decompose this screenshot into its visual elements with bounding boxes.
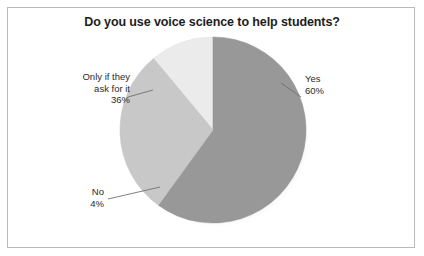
pie-label-only-if-asked-line1: Only if they xyxy=(82,71,130,83)
pie-label-only-if-asked-line2: ask for it xyxy=(82,83,130,95)
pie-label-yes-value: 60% xyxy=(305,85,324,97)
pie-label-only-if-asked-value: 36% xyxy=(82,94,130,106)
pie-label-yes: Yes 60% xyxy=(305,73,324,96)
pie-label-no: No 4% xyxy=(90,186,104,209)
pie-label-no-value: 4% xyxy=(90,198,104,210)
pie-label-no-name: No xyxy=(90,186,104,198)
pie-label-only-if-asked: Only if they ask for it 36% xyxy=(82,71,130,106)
pie-chart-graphic xyxy=(0,0,424,256)
pie-label-yes-name: Yes xyxy=(305,73,324,85)
chart-canvas: Do you use voice science to help student… xyxy=(0,0,424,256)
